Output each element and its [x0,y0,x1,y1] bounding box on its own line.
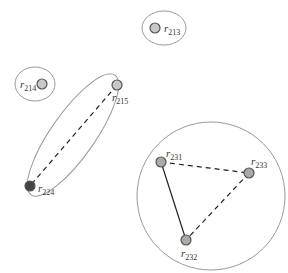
node-r233 [244,168,254,178]
node-r224 [25,181,35,191]
dashed-edge-r231-r233 [161,162,249,173]
nodes [25,23,254,245]
node-label-r213: r213 [164,22,180,37]
node-r231 [156,157,166,167]
node-r214 [37,79,47,89]
node-r213 [150,23,160,33]
cluster-diagram: r213r214r215r224r231r233r232 [0,0,288,273]
node-r215 [112,80,122,90]
node-r232 [181,235,191,245]
node-label-r214: r214 [20,78,36,93]
group-outline-g23x [137,122,285,270]
dashed-edge-r233-r232 [186,173,249,240]
node-label-r233: r233 [251,155,267,170]
node-label-r224: r224 [38,182,54,197]
solid-edge-r231-r232 [161,162,186,240]
group-outlines [13,11,285,270]
node-label-r232: r232 [181,247,197,262]
node-label-r231: r231 [166,147,182,162]
